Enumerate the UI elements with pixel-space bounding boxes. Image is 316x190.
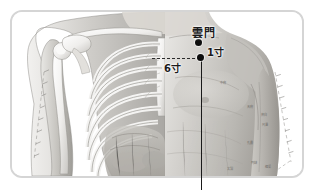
svg-text:尺澤: 尺澤 bbox=[262, 122, 268, 127]
svg-text:中府: 中府 bbox=[220, 80, 226, 85]
svg-text:孔最: 孔最 bbox=[247, 140, 253, 145]
svg-text:列缺: 列缺 bbox=[251, 160, 257, 165]
skeletal-half bbox=[12, 12, 165, 176]
svg-text:天府: 天府 bbox=[247, 104, 253, 109]
anatomical-plate: 中府 天府 俠白 尺澤 孔最 列缺 經渠 太淵 bbox=[12, 12, 302, 176]
figure-container: 中府 天府 俠白 尺澤 孔最 列缺 經渠 太淵 雲門 1寸 6寸 bbox=[0, 0, 316, 190]
svg-text:經渠: 經渠 bbox=[265, 164, 271, 169]
svg-text:俠白: 俠白 bbox=[261, 112, 267, 117]
svg-text:太淵: 太淵 bbox=[227, 166, 233, 171]
surface-anatomy-half: 中府 天府 俠白 尺澤 孔最 列缺 經渠 太淵 bbox=[165, 12, 302, 176]
